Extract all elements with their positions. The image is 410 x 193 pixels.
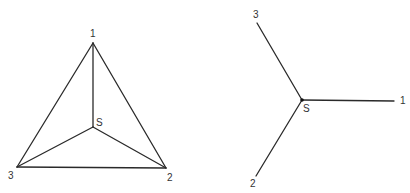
diagram-canvas: 1 2 3 S 1 2 3 S — [0, 0, 410, 193]
center-point-S — [300, 98, 304, 102]
edge-S-1 — [302, 100, 394, 101]
label-1: 1 — [400, 95, 406, 106]
edge-1-2 — [93, 43, 166, 168]
label-2: 2 — [167, 172, 173, 183]
label-1: 1 — [90, 28, 96, 39]
edge-3-S — [17, 127, 93, 167]
label-2: 2 — [250, 178, 256, 189]
edge-2-S — [93, 127, 166, 168]
edge-3-2 — [17, 167, 166, 168]
right-figure: 1 2 3 S — [250, 9, 406, 189]
label-S: S — [96, 117, 103, 128]
left-figure: 1 2 3 S — [8, 28, 173, 183]
label-3: 3 — [253, 9, 259, 20]
edge-S-2 — [256, 100, 302, 176]
label-S: S — [303, 103, 310, 114]
label-3: 3 — [8, 170, 14, 181]
edge-S-3 — [257, 23, 302, 100]
edge-1-3 — [17, 43, 93, 167]
